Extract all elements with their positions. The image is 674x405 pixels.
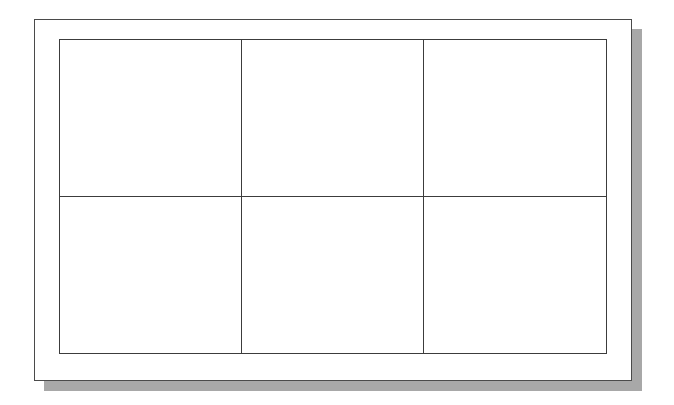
grid-cell-r2-c1 [60,197,242,353]
grid-cell-r1-c3 [424,40,606,197]
grid-cell-r2-c2 [242,197,424,353]
grid-cell-r2-c3 [424,197,606,353]
grid-table [59,39,607,354]
grid-cell-r1-c2 [242,40,424,197]
grid-cell-r1-c1 [60,40,242,197]
